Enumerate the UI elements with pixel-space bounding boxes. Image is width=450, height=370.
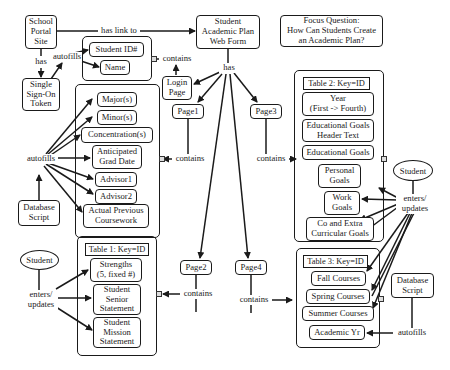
- resource-icon: [156, 291, 162, 297]
- major-field: Major(s): [97, 92, 137, 107]
- mission-statement-field: Student Mission Statement: [93, 317, 141, 348]
- student-id-field: Student ID#: [89, 42, 144, 57]
- page2[interactable]: Page2: [180, 260, 212, 275]
- senior-statement-field: Student Senior Statement: [93, 284, 141, 315]
- advisor2-field: Advisor2: [95, 189, 137, 204]
- link-label-has-pages: has: [219, 63, 239, 73]
- resource-icon: [151, 56, 157, 62]
- resource-icon: [378, 296, 384, 302]
- work-goals-field: Work Goals: [324, 191, 360, 215]
- concentration-field: Concentration(s): [81, 127, 153, 143]
- link-label-has-link-to: has link to: [98, 26, 140, 36]
- summer-courses-field: Summer Courses: [302, 306, 374, 321]
- link-label-has-sso: has: [31, 57, 51, 67]
- school-portal-site: School Portal Site: [25, 15, 57, 49]
- database-script-left: Database Script: [18, 200, 60, 226]
- focus-question: Focus Question: How Can Students Create …: [280, 15, 383, 47]
- link-label-contains-page2: contains: [180, 289, 216, 299]
- page3[interactable]: Page3: [250, 104, 282, 119]
- personal-goals-field: Personal Goals: [318, 164, 361, 188]
- page4[interactable]: Page4: [235, 260, 267, 275]
- name-field: Name: [100, 60, 130, 75]
- table1-header: Table 1: Key=ID: [85, 243, 149, 256]
- database-script-right: Database Script: [391, 273, 434, 298]
- student-actor-right: Student: [393, 160, 433, 181]
- student-actor-left: Student: [20, 250, 59, 270]
- link-label-enters-updates-left: enters/ updates: [24, 290, 58, 310]
- link-label-autofills-right: autofills: [395, 328, 429, 338]
- educational-goals-field: Educational Goals: [302, 145, 374, 160]
- single-sign-on-token: Single Sign-On Token: [22, 78, 60, 111]
- student-academic-plan-web-form: Student Academic Plan Web Form: [196, 15, 260, 49]
- table3-header: Table 3: Key=ID: [303, 255, 368, 268]
- link-label-contains-page3: contains: [253, 154, 289, 164]
- co-extra-curricular-goals-field: Co and Extra Curricular Goals: [306, 217, 374, 241]
- resource-icon: [381, 156, 387, 162]
- advisor1-field: Advisor1: [95, 172, 137, 187]
- link-label-autofills-sso: autofills: [52, 52, 82, 62]
- spring-courses-field: Spring Courses: [306, 289, 370, 304]
- educational-goals-header-field: Educational Goals Header Text: [302, 119, 374, 142]
- table2-header: Table 2: Key=ID: [303, 77, 370, 90]
- link-label-contains-page1: contains: [172, 154, 208, 164]
- fall-courses-field: Fall Courses: [311, 271, 366, 286]
- page1[interactable]: Page1: [172, 104, 204, 119]
- previous-coursework-field: Actual Previous Coursework: [83, 204, 149, 228]
- link-label-enters-updates-right: enters/ updates: [396, 194, 434, 214]
- academic-yr-field: Academic Yr: [309, 325, 365, 340]
- minor-field: Minor(s): [97, 110, 137, 125]
- year-field: Year (First -> Fourth): [302, 92, 374, 116]
- anticipated-grad-date-field: Anticipated Grad Date: [92, 145, 142, 169]
- strengths-field: Strengths (5, fixed #): [90, 258, 142, 282]
- link-label-autofills-left: autofills: [24, 154, 58, 164]
- resource-icon: [159, 156, 165, 162]
- login-page[interactable]: Login Page: [162, 76, 192, 100]
- link-label-contains-page4: contains: [236, 295, 272, 305]
- link-label-contains-login: contains: [159, 54, 195, 64]
